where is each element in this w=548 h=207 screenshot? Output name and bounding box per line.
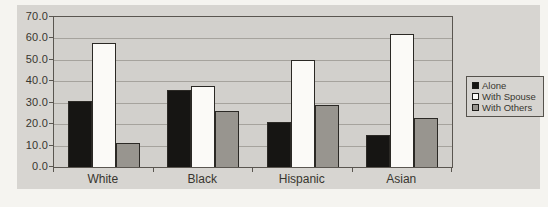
y-tick-label: 20.0 [17, 118, 48, 129]
x-category-label: Asian [352, 172, 452, 186]
x-tick [451, 168, 452, 172]
bar-alone [366, 135, 390, 167]
y-tick-label: 0.0 [17, 161, 48, 172]
bar-alone [167, 90, 191, 167]
legend-item-alone: Alone [472, 80, 539, 91]
x-tick [53, 168, 54, 172]
x-category-label: Hispanic [252, 172, 352, 186]
bar-group [154, 17, 254, 167]
legend-label: With Others [482, 102, 532, 113]
bar-with-spouse [291, 60, 315, 167]
legend-label: Alone [482, 80, 506, 91]
legend: AloneWith SpouseWith Others [466, 76, 544, 117]
bar-with-spouse [191, 86, 215, 167]
y-tick-label: 40.0 [17, 75, 48, 86]
x-category-label: Black [153, 172, 253, 186]
y-tick-label: 50.0 [17, 54, 48, 65]
bar-with-others [414, 118, 438, 167]
x-tick [252, 168, 253, 172]
bar-group [54, 17, 154, 167]
bar-group [253, 17, 353, 167]
bar-with-spouse [390, 34, 414, 167]
y-tick-label: 60.0 [17, 32, 48, 43]
legend-swatch-icon [472, 93, 479, 100]
legend-label: With Spouse [482, 91, 536, 102]
legend-item-with-others: With Others [472, 102, 539, 113]
plot-area [53, 16, 453, 168]
bar-with-others [116, 143, 140, 167]
bar-chart: 70.060.050.040.030.020.010.00.0 WhiteBla… [17, 5, 540, 189]
y-tick-label: 70.0 [17, 11, 48, 22]
y-tick-label: 10.0 [17, 140, 48, 151]
bar-alone [68, 101, 92, 167]
scanned-page: 70.060.050.040.030.020.010.00.0 WhiteBla… [0, 0, 548, 207]
bar-with-spouse [92, 43, 116, 167]
legend-item-with-spouse: With Spouse [472, 91, 539, 102]
bar-with-others [215, 111, 239, 167]
x-category-label: White [53, 172, 153, 186]
bar-with-others [315, 105, 339, 167]
legend-swatch-icon [472, 82, 479, 89]
bar-group [353, 17, 453, 167]
bar-alone [267, 122, 291, 167]
y-tick-label: 30.0 [17, 97, 48, 108]
x-tick [352, 168, 353, 172]
x-tick [153, 168, 154, 172]
legend-swatch-icon [472, 104, 479, 111]
